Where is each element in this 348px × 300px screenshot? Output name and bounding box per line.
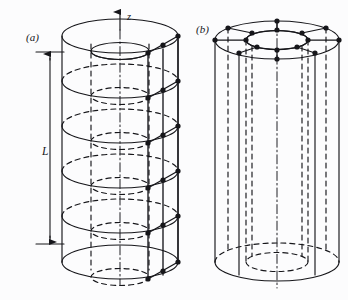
- node: [175, 33, 180, 38]
- node: [160, 268, 165, 273]
- node: [145, 185, 150, 190]
- node: [305, 37, 310, 42]
- node: [175, 78, 180, 83]
- node: [175, 168, 180, 173]
- node: [254, 44, 259, 49]
- node: [274, 56, 279, 61]
- node: [274, 27, 279, 32]
- node: [212, 37, 217, 42]
- node: [145, 50, 150, 55]
- node: [249, 30, 254, 35]
- z-axis-label: z: [126, 11, 131, 22]
- node: [323, 25, 328, 30]
- node: [225, 25, 230, 30]
- node: [175, 259, 180, 264]
- node: [160, 222, 165, 227]
- node: [160, 177, 165, 182]
- node: [160, 87, 165, 92]
- node: [145, 230, 150, 235]
- node: [243, 37, 248, 42]
- node: [336, 37, 341, 42]
- node: [274, 47, 279, 52]
- node: [145, 95, 150, 100]
- node: [299, 30, 304, 35]
- length-label: L: [41, 145, 48, 157]
- figure-root: (a) z L: [0, 0, 348, 300]
- node: [175, 123, 180, 128]
- node: [145, 276, 150, 281]
- node: [145, 140, 150, 145]
- node: [175, 213, 180, 218]
- node: [160, 42, 165, 47]
- node: [236, 50, 241, 55]
- panel-a-label: (a): [26, 31, 39, 44]
- node: [274, 18, 279, 23]
- panel-b-label: (b): [196, 23, 209, 36]
- cylinder-mesh-figure: (a) z L: [0, 0, 348, 300]
- node: [312, 50, 317, 55]
- node: [160, 132, 165, 137]
- node: [294, 44, 299, 49]
